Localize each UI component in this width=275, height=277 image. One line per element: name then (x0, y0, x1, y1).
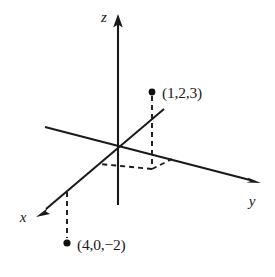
y-axis-line (45, 127, 250, 180)
point-label-1-2-3: (1,2,3) (162, 84, 202, 102)
point-label-4-0-neg2: (4,0,−2) (77, 236, 126, 254)
point-dot-1-2-3 (149, 89, 156, 96)
z-axis-label: z (100, 9, 107, 25)
dashed-projection-to-y-axis (152, 159, 172, 169)
coordinate-system-figure: z y x (1,2,3) (4,0,−2) (0, 0, 275, 277)
x-axis-label: x (19, 209, 27, 225)
point-dot-4-0-neg2 (63, 239, 70, 246)
guide-line-parallel-x (118, 109, 164, 148)
x-axis-line (46, 148, 118, 209)
axes-diagram: z y x (1,2,3) (4,0,−2) (0, 0, 275, 277)
y-axis-label: y (247, 193, 256, 209)
dashed-projection-to-x-axis (100, 164, 152, 169)
x-axis-arrowhead (36, 208, 50, 217)
